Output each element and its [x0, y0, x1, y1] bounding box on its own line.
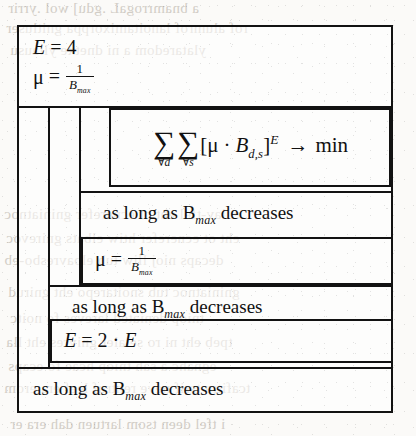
exponent-e: E [270, 132, 278, 147]
outer-cond-tail: decreases [151, 378, 224, 399]
outer-cond-head: as long as B [33, 378, 125, 399]
multiplication-dot: · [223, 133, 230, 157]
sum-symbol: ∑ [177, 130, 199, 155]
init-line-e: E=4 [33, 36, 95, 60]
scanned-page: a bnamrrogaL .gdu] wol .yrrir rof alumro… [0, 0, 416, 436]
e-update-factor: 2 [98, 329, 108, 351]
inner-loop-condition-text: as long as Bmax decreases [103, 202, 293, 228]
e-update-equals: = [81, 329, 92, 351]
mu-update-den-base: B [131, 259, 139, 274]
middle-loop: ∑ ∀d ∑ ∀s [μ·Bd,s]E→min [50, 108, 391, 319]
objective-function-math: ∑ ∀d ∑ ∀s [μ·Bd,s]E→min [152, 128, 348, 167]
inner-loop: ∑ ∀d ∑ ∀s [μ·Bd,s]E→min [81, 108, 391, 237]
e-update-rhs: E [124, 329, 136, 351]
e-update-dot: · [113, 329, 120, 351]
init-mu-equals: = [49, 65, 60, 87]
summation-over-d: ∑ ∀d [153, 130, 175, 169]
init-e-equals: = [50, 36, 61, 58]
init-mu-den-base: B [69, 77, 77, 92]
inner-loop-condition: as long as Bmax decreases [81, 191, 391, 237]
mu-update-block: μ=1Bmax [81, 237, 391, 285]
outer-loop-condition: as long as Bmax decreases [19, 367, 391, 412]
init-e-symbol: E [33, 36, 45, 58]
summation-over-s: ∑ ∀s [177, 130, 199, 169]
init-block-math: E=4 μ=1Bmax [33, 36, 95, 95]
sum-symbol: ∑ [153, 130, 175, 155]
mu-update-den-sub: max [139, 267, 153, 276]
init-mu-fraction: 1Bmax [66, 62, 94, 94]
mu-symbol: μ [207, 133, 218, 157]
middle-loop-body: ∑ ∀d ∑ ∀s [μ·Bd,s]E→min [79, 108, 391, 285]
min-keyword: min [315, 133, 348, 157]
mu-update-fraction: 1Bmax [128, 244, 156, 276]
sum-limit-s: ∀s [182, 156, 193, 169]
init-mu-denominator: Bmax [66, 76, 94, 94]
structogram-frame: E=4 μ=1Bmax [17, 25, 393, 413]
init-line-mu: μ=1Bmax [33, 63, 95, 95]
objective-function-block: ∑ ∀d ∑ ∀s [μ·Bd,s]E→min [109, 108, 391, 187]
middle-loop-condition: as long as Bmax decreases [50, 285, 391, 331]
init-mu-symbol: μ [33, 65, 44, 87]
outer-loop-condition-text: as long as Bmax decreases [33, 378, 223, 404]
outer-cond-sub: max [125, 388, 146, 402]
middle-cond-tail: decreases [190, 296, 263, 317]
mu-update-symbol: μ [95, 248, 106, 270]
inner-cond-tail: decreases [221, 202, 294, 223]
outer-loop-body: ∑ ∀d ∑ ∀s [μ·Bd,s]E→min [48, 108, 391, 367]
b-symbol: B [235, 133, 248, 157]
b-subscript: d,s [248, 147, 263, 161]
ghost-line: a bnamrrogaL .gdu] wol .yrrir [8, 0, 199, 17]
sum-limit-d: ∀d [158, 156, 171, 169]
inner-cond-head: as long as B [103, 202, 195, 223]
e-update-math: E=2·E [64, 329, 136, 353]
middle-loop-condition-text: as long as Bmax decreases [72, 296, 262, 322]
init-e-value: 4 [67, 36, 77, 58]
init-mu-numerator: 1 [74, 62, 87, 76]
mu-update-math: μ=1Bmax [95, 245, 157, 277]
ghost-line: i tfel deen tsom lartuen dah era er [10, 416, 225, 433]
outer-loop: ∑ ∀d ∑ ∀s [μ·Bd,s]E→min [19, 106, 391, 411]
init-block: E=4 μ=1Bmax [19, 27, 391, 106]
inner-loop-body: ∑ ∀d ∑ ∀s [μ·Bd,s]E→min [109, 108, 391, 191]
e-update-lhs: E [64, 329, 76, 351]
mu-update-equals: = [111, 248, 122, 270]
mu-update-numerator: 1 [136, 244, 149, 258]
init-mu-den-sub: max [77, 85, 91, 94]
right-arrow-icon: → [287, 133, 308, 157]
inner-cond-sub: max [195, 213, 216, 227]
middle-cond-sub: max [164, 307, 185, 321]
mu-update-denominator: Bmax [128, 258, 156, 276]
middle-cond-head: as long as B [72, 296, 164, 317]
